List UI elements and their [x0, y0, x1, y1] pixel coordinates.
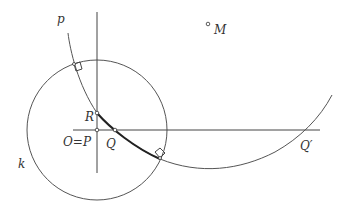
- label-k: k: [18, 157, 25, 171]
- label-Q-prime: Q′: [300, 139, 313, 153]
- bold-arc-segment: [97, 113, 160, 159]
- geometry-diagram: p M R O=P Q Q′ k: [0, 0, 349, 214]
- point-Q: [113, 128, 117, 132]
- point-O-P: [95, 128, 99, 132]
- point-upper-tangent: [73, 63, 76, 66]
- label-O-P: O=P: [63, 135, 92, 149]
- label-p: p: [57, 12, 65, 26]
- label-M: M: [213, 23, 227, 37]
- label-R: R: [84, 110, 94, 124]
- point-M: [206, 22, 210, 26]
- label-Q: Q: [106, 137, 116, 151]
- point-R: [95, 111, 99, 115]
- point-lower-tangent: [159, 157, 162, 160]
